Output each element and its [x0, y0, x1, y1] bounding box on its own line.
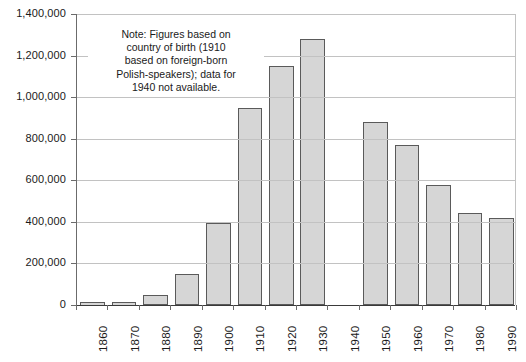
y-tick-label: 600,000: [0, 174, 66, 185]
y-tick-mark: [71, 222, 77, 223]
x-tick-label: 1870: [129, 326, 141, 352]
bar[interactable]: [269, 66, 294, 305]
gridline: [77, 263, 515, 264]
x-tick-mark: [516, 305, 517, 310]
y-tick-label: 200,000: [0, 257, 66, 268]
y-tick-mark: [71, 263, 77, 264]
bar[interactable]: [363, 122, 388, 305]
x-tick-label: 1960: [412, 326, 424, 352]
gridline: [77, 97, 515, 98]
y-tick-mark: [71, 139, 77, 140]
x-axis: 1860187018801890190019101920193019401950…: [76, 308, 516, 362]
chart-note-line: Polish-speakers); data for: [90, 68, 262, 81]
gridline: [77, 139, 515, 140]
gridline: [77, 222, 515, 223]
bar[interactable]: [143, 295, 168, 305]
chart-note: Note: Figures based oncountry of birth (…: [88, 26, 264, 97]
x-tick-label: 1940: [349, 326, 361, 352]
y-tick-label: 0: [0, 299, 66, 310]
x-tick-label: 1880: [160, 326, 172, 352]
chart-note-line: based on foreign-born: [90, 54, 262, 67]
bar-slot: [360, 14, 391, 305]
y-tick-label: 1,400,000: [0, 8, 66, 19]
chart-note-line: 1940 not available.: [90, 81, 262, 94]
chart-note-line: Note: Figures based on: [90, 28, 262, 41]
bar-chart: 0200,000400,000600,000800,0001,000,0001,…: [0, 0, 526, 362]
x-tick-label: 1950: [380, 326, 392, 352]
bar-slot: [297, 14, 328, 305]
y-tick-label: 400,000: [0, 216, 66, 227]
y-tick-label: 800,000: [0, 133, 66, 144]
bar[interactable]: [489, 218, 514, 305]
bar[interactable]: [458, 213, 483, 305]
y-tick-mark: [71, 56, 77, 57]
bar[interactable]: [395, 145, 420, 305]
bar-slot: [328, 14, 359, 305]
x-tick-label: 1980: [474, 326, 486, 352]
x-tick-label: 1860: [97, 326, 109, 352]
x-tick-label: 1990: [506, 326, 518, 352]
bar[interactable]: [175, 274, 200, 305]
bar-slot: [266, 14, 297, 305]
gridline: [77, 180, 515, 181]
x-tick-label: 1910: [254, 326, 266, 352]
y-tick-label: 1,200,000: [0, 50, 66, 61]
x-tick-label: 1930: [317, 326, 329, 352]
y-tick-mark: [71, 180, 77, 181]
bar-slot: [391, 14, 422, 305]
y-tick-mark: [71, 14, 77, 15]
bar-slot: [454, 14, 485, 305]
bar-slot: [423, 14, 454, 305]
bar-slot: [486, 14, 517, 305]
bar[interactable]: [300, 39, 325, 305]
x-tick-label: 1900: [223, 326, 235, 352]
x-tick-label: 1970: [443, 326, 455, 352]
bar[interactable]: [426, 185, 451, 305]
chart-note-line: country of birth (1910: [90, 41, 262, 54]
y-axis: 0200,000400,000600,000800,0001,000,0001,…: [0, 0, 72, 310]
gridline: [77, 14, 515, 15]
bar[interactable]: [238, 108, 263, 305]
x-tick-label: 1920: [286, 326, 298, 352]
y-tick-mark: [71, 97, 77, 98]
x-tick-label: 1890: [192, 326, 204, 352]
y-tick-label: 1,000,000: [0, 91, 66, 102]
